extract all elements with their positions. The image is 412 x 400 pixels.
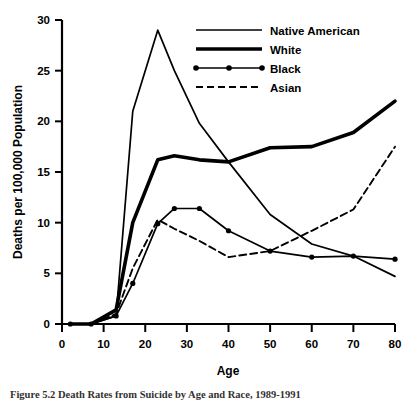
suicide-death-rate-line-chart: 051015202530 01020304050607080 Native Am… [0, 0, 412, 400]
legend-swatch-dot [226, 65, 232, 71]
y-tick-label: 0 [44, 318, 50, 330]
x-axis-title: Age [217, 364, 240, 378]
chart-legend: Native AmericanWhiteBlackAsian [193, 25, 360, 94]
x-tick-label: 50 [264, 338, 277, 350]
x-axis-tick-labels: 01020304050607080 [59, 338, 402, 350]
series-marker-black [351, 254, 356, 259]
x-tick-label: 0 [59, 338, 65, 350]
legend-label-asian: Asian [270, 82, 301, 94]
legend-swatch-dot [193, 65, 199, 71]
x-tick-label: 40 [222, 338, 235, 350]
x-tick-label: 80 [389, 338, 402, 350]
y-tick-label: 20 [37, 115, 50, 127]
figure-container: 051015202530 01020304050607080 Native Am… [0, 0, 412, 400]
y-tick-label: 25 [37, 65, 50, 77]
series-marker-black [392, 257, 397, 262]
figure-caption: Figure 5.2 Death Rates from Suicide by A… [10, 388, 410, 400]
y-axis-title: Deaths per 100,000 Population [11, 85, 25, 259]
data-series-layer [68, 30, 398, 326]
series-marker-black [309, 255, 314, 260]
y-axis-tick-labels: 051015202530 [37, 14, 50, 330]
y-tick-label: 30 [37, 14, 50, 26]
series-marker-black [197, 206, 202, 211]
series-line-native-american [70, 30, 395, 324]
legend-label-native-american: Native American [270, 25, 360, 37]
x-tick-label: 60 [305, 338, 318, 350]
x-tick-label: 20 [139, 338, 152, 350]
legend-label-black: Black [270, 63, 301, 75]
series-marker-black [130, 281, 135, 286]
legend-label-white: White [270, 44, 301, 56]
y-tick-label: 5 [44, 267, 51, 279]
x-tick-label: 10 [97, 338, 110, 350]
legend-swatch-dot [259, 65, 265, 71]
y-tick-label: 15 [37, 166, 50, 178]
series-marker-black [172, 206, 177, 211]
x-tick-label: 70 [347, 338, 360, 350]
series-marker-black [226, 228, 231, 233]
y-tick-label: 10 [37, 217, 50, 229]
x-axis-ticks [62, 324, 395, 332]
x-tick-label: 30 [180, 338, 193, 350]
